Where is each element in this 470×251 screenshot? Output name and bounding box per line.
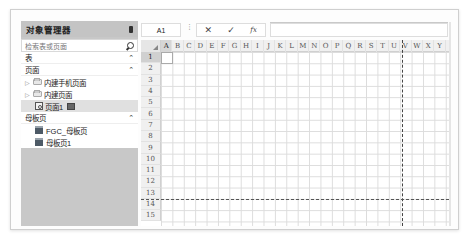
column-header[interactable]: Q [343,40,354,52]
spreadsheet-grid[interactable]: ABCDEFGHIJKLMNOPQRSTUVWXY 12345678910111… [141,40,449,226]
column-header[interactable]: H [241,40,252,52]
select-all-corner[interactable] [141,40,161,52]
page-break-horizontal [141,199,449,200]
row-header[interactable]: 6 [141,108,161,119]
search-placeholder: 检索表或页面 [25,41,67,51]
cancel-icon[interactable]: ✕ [201,25,215,35]
row-header[interactable]: 1 [141,52,161,63]
section-label: 母板页 [25,112,46,123]
tree-item-builtin-pages[interactable]: ▷ 内建页面 [21,88,138,100]
row-header[interactable]: 15 [141,210,161,221]
chevron-up-icon[interactable]: ⌃ [128,114,134,122]
active-cell[interactable] [161,52,173,64]
row-header[interactable]: 10 [141,154,161,165]
column-header[interactable]: G [229,40,240,52]
row-header[interactable]: 12 [141,176,161,187]
column-header[interactable]: K [275,40,286,52]
row-header[interactable]: 11 [141,165,161,176]
tree-item-page1[interactable]: 页面1 [21,100,138,112]
panel-title: 对象管理器 [26,23,71,35]
row-header[interactable]: 4 [141,86,161,97]
column-header[interactable]: T [377,40,388,52]
page-layout-icon [67,103,75,110]
name-box[interactable]: A1 [141,23,181,37]
name-box-value: A1 [157,27,166,34]
row-header[interactable]: 9 [141,142,161,153]
column-header[interactable]: U [389,40,400,52]
master-page-icon [35,138,43,146]
page-icon [35,102,43,110]
column-header[interactable]: A [161,40,172,52]
column-header[interactable]: S [366,40,377,52]
section-masters[interactable]: 母板页 ⌃ [21,112,138,124]
tree-item-mobile-pages[interactable]: ▷ 内建手机页面 [21,76,138,88]
master-page-icon [35,126,43,134]
search-input[interactable]: 检索表或页面 [21,39,138,52]
folder-icon [33,79,42,85]
column-header[interactable]: P [332,40,343,52]
tree-item-label: FGC_母板页 [46,125,87,136]
expand-arrow-icon[interactable]: ▷ [25,79,31,86]
column-header[interactable]: C [184,40,195,52]
confirm-icon[interactable]: ✓ [224,25,238,35]
column-header[interactable]: X [423,40,434,52]
tree-item-label: 内建手机页面 [44,77,86,88]
function-icon[interactable]: fx [247,26,261,34]
scrollbar-track[interactable] [449,22,451,226]
section-pages[interactable]: 页面 ⌃ [21,64,138,76]
column-header[interactable]: W [412,40,423,52]
column-header[interactable]: N [309,40,320,52]
tree-item-label: 内建页面 [44,89,72,100]
row-header[interactable]: 14 [141,199,161,210]
expand-arrow-icon[interactable]: ▷ [25,91,31,98]
column-header[interactable]: J [264,40,275,52]
column-header[interactable]: I [252,40,263,52]
splitter-handle[interactable]: ⋮ [186,25,190,35]
column-header[interactable]: E [207,40,218,52]
column-header[interactable]: Y [434,40,445,52]
tree-item-fgc-master[interactable]: FGC_母板页 [21,124,138,136]
column-header[interactable]: B [172,40,183,52]
section-label: 页面 [25,64,39,75]
column-header[interactable]: R [355,40,366,52]
pin-icon[interactable] [129,26,133,33]
chevron-up-icon[interactable]: ⌃ [128,54,134,62]
section-label: 表 [25,52,32,63]
section-tables[interactable]: 表 ⌃ [21,52,138,64]
tree-item-label: 母板页1 [46,137,71,148]
chevron-up-icon[interactable]: ⌃ [128,66,134,74]
column-header[interactable]: M [298,40,309,52]
column-header[interactable]: F [218,40,229,52]
column-header[interactable]: O [320,40,331,52]
row-header[interactable]: 3 [141,75,161,86]
row-header[interactable]: 7 [141,120,161,131]
formula-input[interactable] [270,23,448,37]
row-header[interactable]: 8 [141,131,161,142]
tree-item-label: 页面1 [45,101,63,112]
row-header[interactable]: 2 [141,63,161,74]
tree-item-master1[interactable]: 母板页1 [21,136,138,148]
panel-empty-area [21,148,138,226]
row-headers: 123456789101112131415 [141,52,161,221]
object-manager-panel: 对象管理器 检索表或页面 表 ⌃ 页面 ⌃ ▷ 内建手机页面 ▷ 内建页面 页面… [21,21,138,226]
search-icon[interactable] [127,42,134,49]
row-header[interactable]: 13 [141,188,161,199]
panel-header: 对象管理器 [21,21,138,37]
row-header[interactable]: 5 [141,97,161,108]
column-header[interactable]: L [286,40,297,52]
column-header[interactable]: D [195,40,206,52]
formula-tools: ✕ ✓ fx [196,23,266,37]
folder-icon [33,91,42,97]
